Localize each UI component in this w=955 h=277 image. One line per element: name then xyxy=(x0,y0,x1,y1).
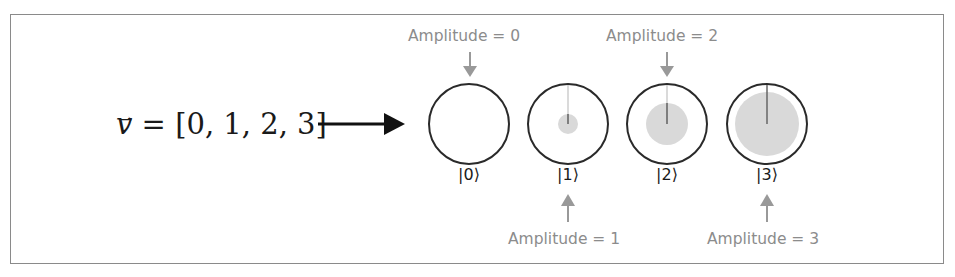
ket-label-3: |3⟩ xyxy=(756,165,778,185)
amplitude-label-2: Amplitude = 2 xyxy=(606,26,718,46)
down-arrow-icon xyxy=(463,52,477,77)
state-circle-1 xyxy=(528,84,608,164)
ket-label-0: |0⟩ xyxy=(458,165,480,185)
state-circle-2 xyxy=(627,84,707,164)
amplitude-label-0: Amplitude = 0 xyxy=(408,26,520,46)
up-arrow-icon xyxy=(760,194,774,222)
amplitude-label-3: Amplitude = 3 xyxy=(707,229,819,249)
ket-label-2: |2⟩ xyxy=(656,165,678,185)
main-arrow-icon xyxy=(318,113,405,135)
amplitude-label-1: Amplitude = 1 xyxy=(508,229,620,249)
ket-label-1: |1⟩ xyxy=(557,165,579,185)
state-circle-0 xyxy=(429,84,509,164)
up-arrow-icon xyxy=(561,194,575,222)
down-arrow-icon xyxy=(660,52,674,77)
state-circle-3 xyxy=(727,84,807,164)
